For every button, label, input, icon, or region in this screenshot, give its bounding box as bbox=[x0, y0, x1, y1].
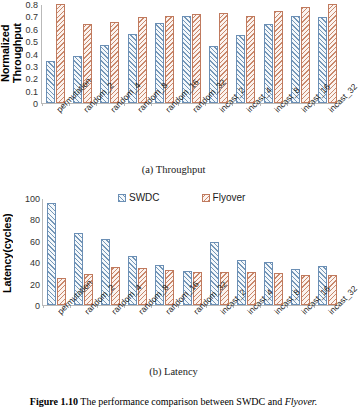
bar-flyover-incast_8 bbox=[274, 11, 283, 103]
y-tick-label: 0.3 bbox=[25, 62, 38, 71]
y-tick-label: 0.2 bbox=[25, 75, 38, 84]
x-tick-label-cell: incast_32 bbox=[314, 308, 341, 360]
x-tick-label-cell: random_4 bbox=[96, 308, 123, 360]
y-tick-label: 40 bbox=[30, 259, 40, 268]
x-tick-label-cell: incast_8 bbox=[260, 308, 287, 360]
bar-swdc-permutation bbox=[46, 61, 55, 103]
x-tick-label-cell: permutation bbox=[41, 106, 68, 158]
x-tick-label-cell: random_32 bbox=[178, 308, 205, 360]
y-tick-label: 0.1 bbox=[25, 87, 38, 96]
y-tick-label: 0.4 bbox=[25, 50, 38, 59]
x-tick-label-cell: incast_16 bbox=[286, 106, 313, 158]
latency-y-ticklabels: 020406080100 bbox=[14, 194, 40, 306]
x-tick-label-cell: incast_2 bbox=[205, 106, 232, 158]
x-tick-label-cell: incast_2 bbox=[205, 308, 232, 360]
latency-x-ticklabels: permutationrandom_2random_4random_8rando… bbox=[42, 308, 341, 360]
bar-flyover-permutation bbox=[56, 4, 65, 103]
x-tick-label-cell: random_16 bbox=[151, 308, 178, 360]
bar-swdc-permutation bbox=[47, 203, 56, 305]
y-tick-label: 0 bbox=[33, 100, 38, 109]
bar-flyover-random_2 bbox=[83, 24, 92, 103]
x-tick-label-cell: incast_16 bbox=[287, 308, 314, 360]
bar-group bbox=[43, 199, 70, 305]
throughput-y-axis-title: Normalized Throughput bbox=[0, 0, 13, 106]
figure-caption-label: Figure 1.10 bbox=[30, 396, 78, 407]
x-tick-label-cell: incast_4 bbox=[232, 106, 259, 158]
throughput-x-ticklabels: permutationrandom_2random_4random_8rando… bbox=[41, 106, 341, 158]
x-tick-label-cell: random_4 bbox=[96, 106, 123, 158]
y-tick-label: 0.6 bbox=[25, 25, 38, 34]
y-tick-label: 0.8 bbox=[25, 1, 38, 10]
y-tick-label: 0.7 bbox=[25, 13, 38, 22]
bar-flyover-incast_4 bbox=[246, 16, 255, 103]
figure-caption: Figure 1.10 The performance comparison b… bbox=[0, 396, 347, 409]
x-tick-label-cell: random_8 bbox=[123, 106, 150, 158]
figure-caption-text: The performance comparison between SWDC … bbox=[80, 396, 282, 407]
x-tick-label-cell: incast_32 bbox=[314, 106, 341, 158]
x-tick-label-cell: random_2 bbox=[68, 106, 95, 158]
figure-caption-emphasis: Flyover. bbox=[285, 396, 318, 407]
x-tick-label-cell: incast_8 bbox=[259, 106, 286, 158]
bar-flyover-incast_16 bbox=[301, 7, 310, 103]
x-tick-label-cell: permutation bbox=[42, 308, 69, 360]
x-tick-label-cell: incast_4 bbox=[232, 308, 259, 360]
y-tick-label: 20 bbox=[30, 280, 40, 289]
x-tick-label-cell: random_32 bbox=[177, 106, 204, 158]
y-tick-label: 80 bbox=[30, 216, 40, 225]
x-tick-label-cell: random_2 bbox=[69, 308, 96, 360]
y-tick-label: 100 bbox=[25, 195, 40, 204]
y-tick-label: 60 bbox=[30, 237, 40, 246]
bar-group bbox=[42, 5, 69, 103]
throughput-y-ticklabels: 00.10.20.30.40.50.60.70.8 bbox=[14, 0, 38, 104]
latency-y-axis-title: Latency(cycles) bbox=[1, 200, 15, 306]
throughput-panel: Normalized Throughput 00.10.20.30.40.50.… bbox=[0, 0, 347, 180]
throughput-subcaption: (a) Throughput bbox=[0, 164, 347, 175]
latency-panel: Latency(cycles) 020406080100 SWDC Flyove… bbox=[0, 182, 347, 382]
x-tick-label-cell: random_16 bbox=[150, 106, 177, 158]
latency-subcaption: (b) Latency bbox=[0, 366, 347, 377]
x-tick-label-cell: random_8 bbox=[124, 308, 151, 360]
y-tick-label: 0 bbox=[35, 302, 40, 311]
y-tick-label: 0.5 bbox=[25, 38, 38, 47]
